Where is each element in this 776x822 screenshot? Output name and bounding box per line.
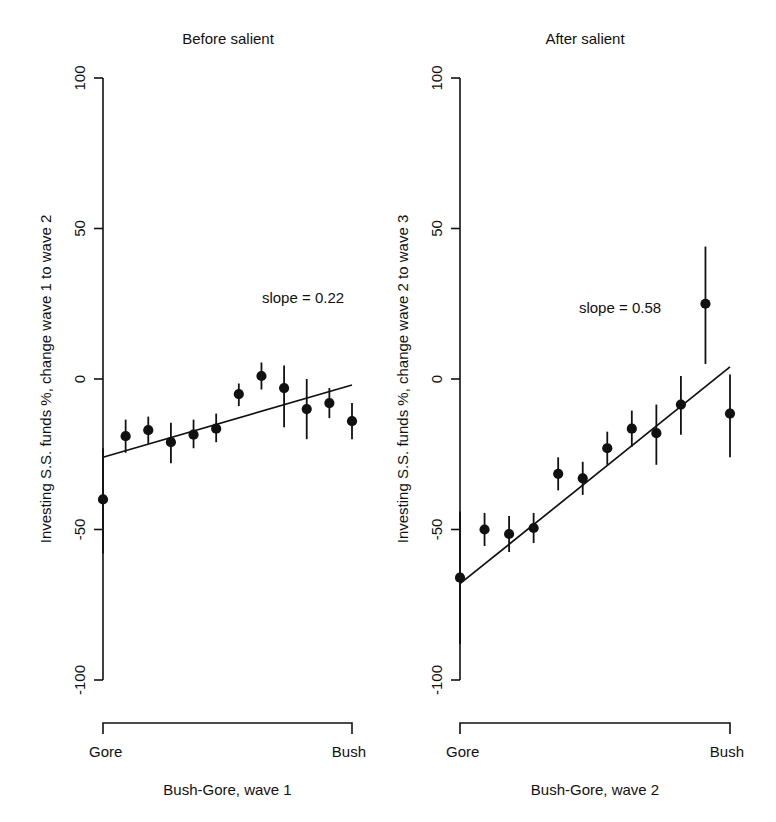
x-end-label-bush-right: Bush <box>710 743 744 760</box>
regression-line-right <box>460 367 730 584</box>
panel-before-salient: Before salient Investing S.S. funds %, c… <box>37 30 366 798</box>
svg-text:-100: -100 <box>71 665 88 695</box>
figure-container: Before salient Investing S.S. funds %, c… <box>0 0 776 822</box>
y-axis-title-left: Investing S.S. funds %, change wave 1 to… <box>37 215 54 544</box>
y-axis-left: 100500-50-100 <box>71 65 103 695</box>
svg-text:-100: -100 <box>428 665 445 695</box>
y-axis-right: 100500-50-100 <box>428 65 460 695</box>
svg-text:-50: -50 <box>71 519 88 541</box>
x-end-label-bush-left: Bush <box>332 743 366 760</box>
x-axis-bracket-right <box>460 723 730 734</box>
svg-text:100: 100 <box>71 65 88 90</box>
slope-annotation-right: slope = 0.58 <box>579 299 661 316</box>
regression-line-left <box>103 385 352 457</box>
slope-annotation-left: slope = 0.22 <box>262 289 344 306</box>
svg-text:50: 50 <box>71 220 88 237</box>
panel-title-after-salient: After salient <box>545 30 625 47</box>
x-axis-bracket-left <box>103 723 352 734</box>
panel-title-before-salient: Before salient <box>182 30 275 47</box>
svg-text:50: 50 <box>428 220 445 237</box>
dual-panel-scatter-figure: Before salient Investing S.S. funds %, c… <box>0 0 776 822</box>
y-axis-title-right: Investing S.S. funds %, change wave 2 to… <box>394 215 411 544</box>
x-axis-title-right: Bush-Gore, wave 2 <box>531 781 659 798</box>
data-points-left <box>98 362 357 553</box>
svg-text:-50: -50 <box>428 519 445 541</box>
x-end-label-gore-left: Gore <box>89 743 122 760</box>
x-end-label-gore-right: Gore <box>446 743 479 760</box>
svg-text:0: 0 <box>428 375 445 383</box>
x-axis-title-left: Bush-Gore, wave 1 <box>163 781 291 798</box>
panel-after-salient: After salient Investing S.S. funds %, ch… <box>394 30 744 798</box>
svg-text:100: 100 <box>428 65 445 90</box>
svg-text:0: 0 <box>71 375 88 383</box>
